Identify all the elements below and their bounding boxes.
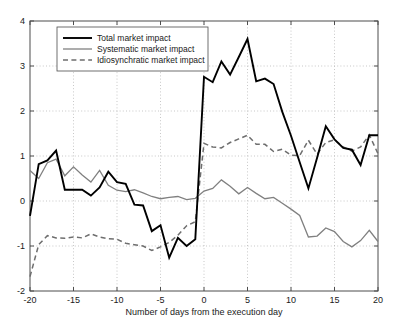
- x-tick-label: 10: [286, 295, 296, 305]
- legend: Total market impact Systematic market im…: [57, 27, 208, 71]
- legend-label-idiosyncratic-market-impact: Idiosynchratic market impact: [97, 55, 205, 65]
- market-impact-line-chart: -20-15-10-505101520 -2-101234 Number of …: [0, 0, 403, 327]
- y-tick-label: 4: [20, 16, 25, 26]
- x-tick-label: 20: [373, 295, 383, 305]
- x-tick-label: -15: [67, 295, 80, 305]
- x-tick-label: -20: [23, 295, 36, 305]
- figure-container: -20-15-10-505101520 -2-101234 Number of …: [0, 0, 403, 327]
- x-tick-label: 15: [329, 295, 339, 305]
- legend-label-total-market-impact: Total market impact: [97, 33, 171, 43]
- y-tick-label: 2: [20, 106, 25, 116]
- y-tick-labels: -2-101234: [17, 16, 25, 296]
- x-tick-label: -10: [110, 295, 123, 305]
- x-axis-title: Number of days from the execution day: [125, 307, 283, 317]
- y-tick-label: -2: [17, 286, 25, 296]
- x-tick-label: 5: [245, 295, 250, 305]
- x-tick-label: 0: [201, 295, 206, 305]
- y-tick-label: 0: [20, 196, 25, 206]
- y-tick-label: 3: [20, 61, 25, 71]
- x-tick-label: -5: [156, 295, 164, 305]
- x-tick-labels: -20-15-10-505101520: [23, 295, 383, 305]
- legend-label-systematic-market-impact: Systematic market impact: [97, 44, 195, 54]
- y-tick-label: -1: [17, 241, 25, 251]
- y-tick-label: 1: [20, 151, 25, 161]
